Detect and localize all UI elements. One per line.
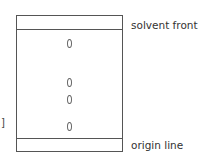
solvent-front-line (16, 29, 123, 30)
spot-2 (67, 78, 72, 87)
origin-line-label: origin line (131, 139, 183, 151)
spot-4 (67, 122, 72, 131)
spot-1 (67, 39, 72, 48)
spot-3 (67, 95, 72, 104)
bracket-mark: ] (1, 117, 5, 128)
origin-line (16, 138, 123, 139)
solvent-front-label: solvent front (131, 19, 198, 31)
